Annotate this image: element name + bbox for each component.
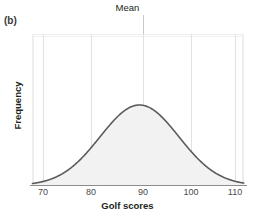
x-tick-label-80: 80 xyxy=(74,187,108,197)
x-tick-label-100: 100 xyxy=(174,187,208,197)
x-tick-label-70: 70 xyxy=(26,187,60,197)
y-axis-title: Frequency xyxy=(12,76,23,136)
x-tick-label-110: 110 xyxy=(218,187,252,197)
figure-panel-b: (b) Mean 70 80 90 xyxy=(0,0,255,218)
x-tick-label-90: 90 xyxy=(126,187,160,197)
x-axis-title: Golf scores xyxy=(0,200,255,211)
plot-area xyxy=(0,0,255,218)
